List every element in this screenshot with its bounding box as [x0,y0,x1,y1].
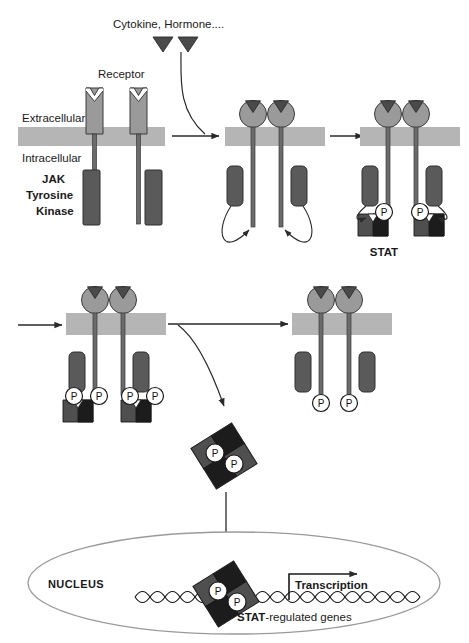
svg-text:P: P [417,207,424,218]
phosphate-nucleus-b: P [228,593,246,611]
phosphate-nucleus-a: P [209,582,227,600]
phosphate-panel4-d: P [147,388,164,405]
svg-text:P: P [215,586,222,597]
membrane-band-panel3 [360,127,460,146]
jak-block-panel5-left [295,352,311,392]
ligand-label: Cytokine, Hormone.... [113,18,224,30]
phosphate-stat-dimer-a: P [206,444,224,462]
phosphate-panel4-c: P [122,388,139,405]
svg-text:P: P [96,391,103,402]
stat-regulated-genes-label: STAT-regulated genes [237,611,352,623]
svg-text:P: P [381,207,388,218]
phosphate-panel3-right: P [412,204,429,221]
jak-block-panel3-right [426,166,442,206]
svg-text:P: P [212,448,219,459]
jak-block-panel3-left [362,166,378,206]
jak-block-left [83,170,100,225]
phosphate-panel4-a: P [66,388,83,405]
jak-block-right [145,170,162,225]
jak-block-panel2-left [227,166,243,206]
svg-text:P: P [346,398,353,409]
svg-text:P: P [231,459,238,470]
jak-label-line3: Kinase [36,205,74,217]
stat-label: STAT [370,246,398,258]
transcription-label: Transcription [295,579,368,591]
phosphate-panel5-left: P [313,395,330,412]
intracellular-label: Intracellular [22,152,82,164]
svg-text:P: P [318,398,325,409]
jak-label-line2: Tyrosine [26,189,73,201]
stat-genes-rest-part: -regulated genes [265,611,352,623]
jak-block-panel4-right [133,352,149,392]
jak-block-panel4-left [69,352,85,392]
membrane-band-panel5 [292,313,392,335]
nucleus-label: NUCLEUS [48,578,104,590]
phosphate-panel4-b: P [91,388,108,405]
phosphate-stat-dimer-b: P [225,455,243,473]
stat-genes-bold-part: STAT [237,611,265,623]
svg-text:P: P [152,391,159,402]
jak-stat-pathway-diagram: Cytokine, Hormone.... Receptor Extracell… [0,0,469,643]
jak-block-panel5-right [359,352,375,392]
phosphate-panel5-right: P [341,395,358,412]
extracellular-label: Extracellular [22,112,85,124]
membrane-band-panel4 [66,313,166,335]
svg-text:P: P [71,391,78,402]
membrane-band-panel2 [225,127,325,146]
svg-text:P: P [127,391,134,402]
jak-label-line1: JAK [42,173,66,185]
receptor-label: Receptor [98,68,145,80]
jak-block-panel2-right [291,166,307,206]
figure-canvas: Cytokine, Hormone.... Receptor Extracell… [0,0,469,643]
svg-text:P: P [234,597,241,608]
phosphate-panel3-left: P [376,204,393,221]
